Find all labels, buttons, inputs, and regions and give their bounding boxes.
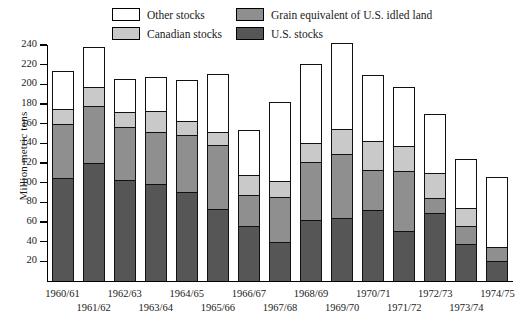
bar-1963-64: [145, 77, 167, 281]
bar-1962-63: [114, 79, 136, 281]
bar-1967-68: [269, 102, 291, 281]
bar-segment-us-stocks: [269, 243, 291, 281]
bar-segment-other-stocks: [83, 47, 105, 88]
x-axis-label: 1967/68: [251, 302, 309, 313]
bar-segment-other-stocks: [300, 64, 322, 145]
y-axis-tick: [40, 261, 47, 262]
bar-segment-canadian-stocks: [238, 176, 260, 197]
bar-segment-idled-land: [114, 128, 136, 181]
legend-item-canadian-stocks: Canadian stocks: [112, 27, 222, 40]
bar-segment-canadian-stocks: [52, 110, 74, 125]
bar-segment-canadian-stocks: [331, 130, 353, 156]
swatch-canadian-stocks-icon: [112, 27, 140, 40]
y-axis-tick-label: 40: [13, 235, 37, 246]
bar-segment-idled-land: [207, 146, 229, 210]
bar-1970-71: [362, 75, 384, 281]
x-axis-label: 1974/75: [468, 288, 525, 299]
y-axis-tick: [40, 241, 47, 242]
x-axis-label: 1964/65: [158, 288, 216, 299]
bar-segment-idled-land: [176, 136, 198, 193]
bar-segment-other-stocks: [145, 77, 167, 111]
x-axis-label: 1970/71: [344, 288, 402, 299]
bar-segment-idled-land: [486, 248, 508, 263]
bar-segment-idled-land: [83, 107, 105, 164]
x-axis-label: 1971/72: [375, 302, 433, 313]
y-axis-tick: [40, 202, 47, 203]
swatch-us-stocks-icon: [236, 27, 264, 40]
x-axis-line: [47, 281, 513, 282]
x-axis-label: 1968/69: [282, 288, 340, 299]
legend-label-us-stocks: U.S. stocks: [271, 28, 323, 40]
bar-segment-canadian-stocks: [83, 88, 105, 107]
y-axis-tick: [40, 123, 47, 124]
x-axis-label: 1965/66: [189, 302, 247, 313]
bar-segment-us-stocks: [114, 181, 136, 281]
bar-segment-canadian-stocks: [362, 142, 384, 171]
bar-segment-canadian-stocks: [393, 147, 415, 172]
chart-legend: Other stocks Canadian stocks Grain equiv…: [112, 8, 442, 46]
bar-1965-66: [207, 74, 229, 281]
y-axis-tick-label: 180: [13, 97, 37, 108]
bar-segment-idled-land: [238, 196, 260, 226]
bar-segment-canadian-stocks: [114, 113, 136, 128]
bar-segment-idled-land: [300, 163, 322, 221]
bar-1974-75: [486, 177, 508, 281]
y-axis-tick-label: 200: [13, 77, 37, 88]
bar-1960-61: [52, 71, 74, 281]
y-axis-tick-label: 60: [13, 215, 37, 226]
bar-segment-idled-land: [362, 171, 384, 211]
legend-label-canadian-stocks: Canadian stocks: [147, 28, 222, 40]
y-axis-tick: [40, 64, 47, 65]
swatch-other-stocks-icon: [112, 8, 140, 21]
bar-segment-other-stocks: [114, 79, 136, 112]
bar-1972-73: [424, 114, 446, 281]
y-axis-tick-label: 120: [13, 156, 37, 167]
x-axis-label: 1961/62: [65, 302, 123, 313]
bar-segment-us-stocks: [145, 185, 167, 281]
bar-1973-74: [455, 159, 477, 281]
bar-segment-us-stocks: [362, 211, 384, 281]
bar-segment-us-stocks: [455, 245, 477, 281]
bar-segment-us-stocks: [207, 210, 229, 281]
bar-segment-other-stocks: [331, 43, 353, 130]
bars-container: [47, 45, 513, 281]
bar-1968-69: [300, 64, 322, 281]
swatch-idled-land-icon: [236, 8, 264, 21]
bar-segment-other-stocks: [362, 75, 384, 143]
y-axis-tick: [40, 103, 47, 104]
y-axis-tick-label: 140: [13, 136, 37, 147]
bar-segment-canadian-stocks: [424, 174, 446, 200]
bar-segment-idled-land: [331, 155, 353, 219]
bar-1961-62: [83, 47, 105, 281]
bar-segment-idled-land: [393, 172, 415, 232]
legend-item-us-stocks: U.S. stocks: [236, 27, 323, 40]
bar-segment-other-stocks: [207, 74, 229, 133]
y-axis-tick: [40, 162, 47, 163]
bar-1971-72: [393, 87, 415, 281]
y-axis-tick-label: 240: [13, 38, 37, 49]
bar-segment-us-stocks: [300, 221, 322, 281]
x-axis-label: 1960/61: [34, 288, 92, 299]
bar-segment-idled-land: [52, 125, 74, 179]
bar-segment-other-stocks: [393, 87, 415, 147]
bar-segment-idled-land: [269, 198, 291, 242]
x-axis-label: 1973/74: [437, 302, 495, 313]
bar-segment-us-stocks: [393, 232, 415, 281]
y-axis-tick-label: 20: [13, 254, 37, 265]
y-axis-tick: [40, 44, 47, 45]
legend-label-idled-land: Grain equivalent of U.S. idled land: [271, 9, 432, 21]
bar-segment-canadian-stocks: [269, 182, 291, 199]
y-axis-tick: [40, 182, 47, 183]
legend-item-idled-land: Grain equivalent of U.S. idled land: [236, 8, 432, 21]
y-axis-tick: [40, 84, 47, 85]
bar-segment-other-stocks: [424, 114, 446, 174]
y-axis-tick: [40, 221, 47, 222]
bar-segment-idled-land: [455, 227, 477, 245]
y-axis-tick-label: 220: [13, 58, 37, 69]
bar-segment-us-stocks: [331, 219, 353, 281]
x-axis-label: 1972/73: [406, 288, 464, 299]
bar-segment-other-stocks: [52, 71, 74, 110]
bar-segment-other-stocks: [269, 102, 291, 182]
bar-1964-65: [176, 80, 198, 281]
bar-segment-idled-land: [145, 133, 167, 185]
